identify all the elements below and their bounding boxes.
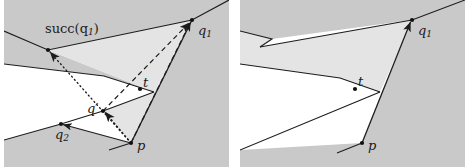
label-p-right: p	[368, 139, 376, 152]
left-panel-canvas	[4, 0, 229, 167]
label-q-prime: q′	[87, 102, 98, 115]
label-succ-q1: succ(q1)	[45, 22, 99, 37]
vertex-dot-q1	[190, 18, 194, 22]
vertex-dot-p-right	[360, 141, 364, 145]
vertex-dot-q1-right	[410, 18, 414, 22]
label-t: t	[143, 76, 148, 89]
label-q2: q2	[55, 128, 69, 143]
right-panel: q1 p t	[240, 0, 465, 167]
label-succ-q1-text: succ(q	[45, 21, 88, 36]
label-p: p	[137, 139, 145, 152]
left-panel: succ(q1) q1 q2 q′ p t	[4, 0, 229, 167]
vertex-dot-t-right	[353, 87, 357, 91]
label-q-prime-mark: ′	[95, 101, 98, 116]
label-t-right: t	[358, 75, 363, 88]
label-q2-subscript: 2	[63, 133, 69, 143]
label-q1-right: q1	[418, 24, 432, 39]
vertex-dot-t	[138, 87, 142, 91]
vertex-dot-p	[129, 141, 133, 145]
vertex-dot-succ-q1	[46, 48, 50, 52]
vertex-dot-q2	[59, 122, 63, 126]
label-q1-right-subscript: 1	[426, 29, 432, 39]
label-succ-q1-paren: )	[94, 21, 99, 36]
figure-root: succ(q1) q1 q2 q′ p t	[0, 0, 471, 167]
vertex-dot-q-prime	[101, 109, 105, 113]
label-q1: q1	[198, 24, 212, 39]
label-q1-subscript: 1	[206, 29, 212, 39]
